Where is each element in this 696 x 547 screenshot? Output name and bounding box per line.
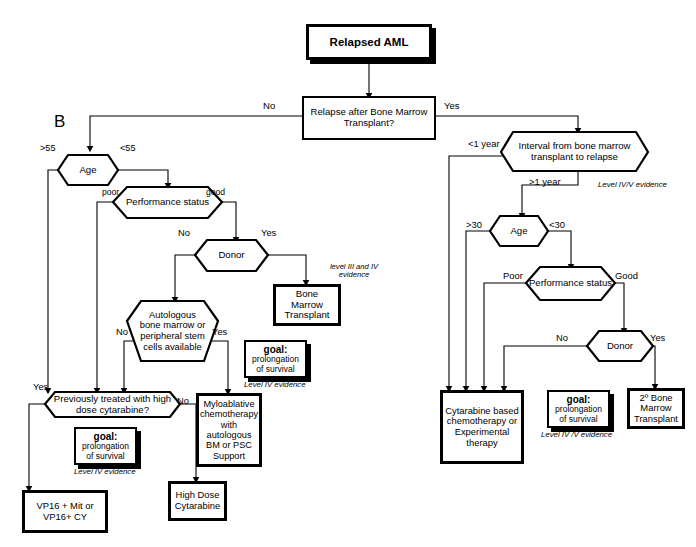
node-autologous-available-label: Autologous bone marrow or peripheral ste… [139,310,206,352]
edge-label-relapse-no: No [263,101,275,112]
edge-label-rps-poor: Poor [503,271,523,281]
node-interval-bmt-to-relapse-label: Interval from bone marrow transplant to … [513,141,636,162]
node-performance-status-right[interactable]: Performance status [526,267,615,300]
goal-box-left-lower-line2: of survival [86,452,124,462]
edge-label-donor-no: No [178,228,190,238]
node-previously-treated-cytarabine-label: Previously treated with high dose cytara… [53,394,172,415]
edge-label-ps-good: good [206,188,225,197]
node-autologous-available[interactable]: Autologous bone marrow or peripheral ste… [127,301,218,361]
edge-label-donor-yes: Yes [261,228,276,238]
evidence-label-level-4-5-right-bottom: Level IV /V evidence [541,431,612,440]
goal-box-left-lower: goal: prolongation of survival [74,427,137,465]
evidence-label-level-4-5-right-top: Level IV/V evidence [598,181,667,190]
goal-box-left-mid: goal: prolongation of survival [244,340,307,378]
evidence-label-level-3-4: level III and IV evidence [322,263,386,280]
node-high-dose-cytarabine[interactable]: High Dose Cytarabine [168,481,227,521]
node-second-bone-marrow-transplant[interactable]: 2º Bone Marrow Transplant [627,388,685,429]
edge-label-rage-lt30: <30 [549,220,565,230]
edge-label-interval-gt1: >1 year [529,177,561,187]
flowchart-canvas: B Relapsed AML Relapse after Bone Marrow… [0,0,696,547]
node-myeloablative-chemo-label: Myloablative chemotherapy with autologou… [200,399,258,461]
node-performance-status-left-label: Performance status [126,197,209,208]
node-bone-marrow-transplant-label: Bone Marrow Transplant [279,289,335,321]
node-donor-left[interactable]: Donor [195,240,268,271]
edge-label-interval-lt1: <1 year [468,139,500,149]
edge-label-prev-no: No [177,396,189,406]
node-relapsed-aml[interactable]: Relapsed AML [306,24,432,60]
panel-letter: B [54,112,65,132]
edge-label-rps-good: Good [615,271,638,281]
edge-label-relapse-yes: Yes [444,101,460,112]
node-bone-marrow-transplant[interactable]: Bone Marrow Transplant [273,284,341,326]
edge-label-age-lt55: <55 [120,143,136,153]
edge-label-autologous-yes: Yes [212,327,227,337]
node-donor-left-label: Donor [218,250,244,261]
edge-label-prev-yes: Yes [33,382,48,392]
evidence-label-level-4-left-mid: Level IV evidence [244,381,306,390]
edge-label-age-gt55: >55 [40,143,56,153]
node-donor-right[interactable]: Donor [587,331,653,361]
evidence-label-level-4-left-lower: Level IV evidence [74,468,136,477]
node-cytarabine-based-chemo-label: Cytarabine based chemotherapy or Experim… [445,406,519,448]
edge-label-ps-poor: poor [102,188,119,197]
node-vp16-regimen[interactable]: VP16 + Mit or VP16+ CY [22,490,108,533]
edge-label-rdonor-no: No [556,333,568,343]
node-relapse-after-bmt[interactable]: Relapse after Bone Marrow Transplant? [302,96,436,140]
node-cytarabine-based-chemo[interactable]: Cytarabine based chemotherapy or Experim… [440,390,524,464]
goal-box-left-mid-line2: of survival [256,365,294,375]
node-vp16-regimen-label: VP16 + Mit or VP16+ CY [27,501,103,522]
edge-label-rage-gt30: >30 [466,220,482,230]
node-high-dose-cytarabine-label: High Dose Cytarabine [173,490,222,511]
node-age-right[interactable]: Age [490,216,548,246]
node-performance-status-right-label: Performance status [529,278,612,289]
node-myeloablative-chemo[interactable]: Myloablative chemotherapy with autologou… [196,393,262,467]
goal-box-right: goal: prolongation of survival [547,390,610,428]
node-second-bmt-label: 2º Bone Marrow Transplant [632,393,680,425]
edge-label-rdonor-yes: Yes [650,333,665,343]
node-previously-treated-cytarabine[interactable]: Previously treated with high dose cytara… [45,392,180,417]
node-interval-bmt-to-relapse[interactable]: Interval from bone marrow transplant to … [501,132,648,171]
node-relapsed-aml-label: Relapsed AML [330,36,409,49]
node-donor-right-label: Donor [607,341,633,352]
goal-box-right-line2: of survival [559,415,597,425]
node-age-left-label: Age [79,165,96,176]
node-age-left[interactable]: Age [58,155,118,185]
node-age-right-label: Age [510,226,527,237]
node-relapse-after-bmt-label: Relapse after Bone Marrow Transplant? [309,107,429,128]
edge-label-autologous-no: No [116,327,128,337]
